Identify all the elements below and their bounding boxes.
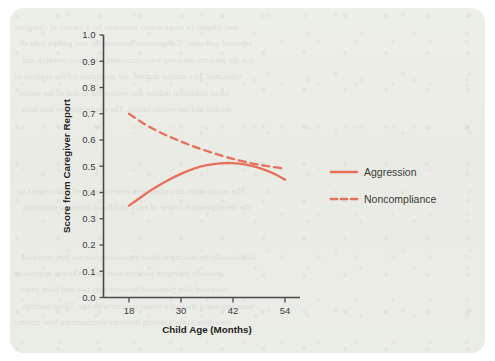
x-tick-label: 18	[124, 305, 135, 316]
y-axis-ticks: 0.00.10.20.30.40.50.60.70.80.91.0	[82, 29, 103, 303]
x-tick-label: 54	[280, 305, 291, 316]
y-tick-label: 0.5	[82, 161, 95, 172]
y-tick-label: 1.0	[82, 29, 95, 40]
x-axis-title: Child Age (Months)	[162, 324, 251, 335]
y-axis-title: Score from Caregiver Report	[61, 98, 72, 233]
y-tick-label: 0.8	[82, 82, 95, 93]
y-tick-label: 0.0	[82, 292, 95, 303]
line-chart: 0.00.10.20.30.40.50.60.70.80.91.0 183042…	[0, 0, 495, 361]
chart-page: and simpler in scope across measures for…	[0, 0, 495, 361]
y-tick-label: 0.2	[82, 239, 95, 250]
y-tick-label: 0.4	[82, 187, 95, 198]
y-tick-label: 0.3	[82, 213, 95, 224]
series-line-noncompliance	[129, 114, 285, 169]
chart-legend: AggressionNoncompliance	[331, 166, 437, 205]
y-tick-label: 0.7	[82, 108, 95, 119]
y-tick-label: 0.6	[82, 134, 95, 145]
y-tick-label: 0.9	[82, 56, 95, 67]
x-tick-label: 42	[228, 305, 239, 316]
legend-label-noncompliance[interactable]: Noncompliance	[364, 193, 437, 205]
x-axis-ticks: 18304254	[124, 298, 291, 316]
series-line-aggression	[129, 163, 285, 206]
x-tick-label: 30	[176, 305, 187, 316]
legend-label-aggression[interactable]: Aggression	[364, 166, 417, 178]
y-tick-label: 0.1	[82, 266, 95, 277]
